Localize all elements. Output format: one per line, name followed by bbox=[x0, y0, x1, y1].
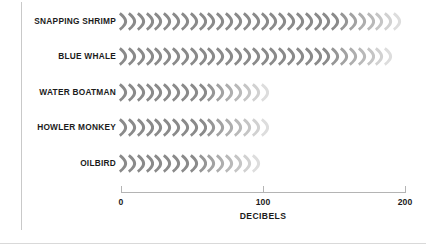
sound-wave-arc-icon bbox=[163, 82, 172, 103]
sound-wave-arc-icon bbox=[190, 82, 199, 103]
x-axis-tick bbox=[263, 186, 264, 193]
sound-wave-arc-icon bbox=[314, 46, 323, 67]
sound-wave-arc-icon bbox=[225, 153, 234, 174]
sound-wave-arc-icon bbox=[234, 153, 243, 174]
row-label: WATER BOATMAN bbox=[24, 77, 116, 107]
sound-wave-arc-icon bbox=[216, 11, 225, 32]
sound-wave-arc-icon bbox=[278, 11, 287, 32]
sound-wave-arc-icon bbox=[181, 46, 190, 67]
sound-wave-arc-icon bbox=[322, 11, 331, 32]
sound-wave-arc-icon bbox=[225, 11, 234, 32]
sound-wave-arc-icon bbox=[163, 117, 172, 138]
sound-wave-arc-icon bbox=[252, 46, 261, 67]
sound-wave-arc-icon bbox=[199, 46, 208, 67]
sound-wave-arc-icon bbox=[261, 11, 270, 32]
sound-wave-arc-icon bbox=[322, 46, 331, 67]
sound-wave-arc-icon bbox=[340, 46, 349, 67]
sound-wave-arc-icon bbox=[314, 11, 323, 32]
chart-row: WATER BOATMAN bbox=[0, 77, 426, 107]
sound-wave-arc-icon bbox=[269, 46, 278, 67]
sound-wave-arc-icon bbox=[358, 11, 367, 32]
sound-wave-arc-icon bbox=[137, 82, 146, 103]
row-label: HOWLER MONKEY bbox=[24, 112, 116, 142]
sound-wave-arc-icon bbox=[296, 46, 305, 67]
sound-wave-arc-icon bbox=[137, 11, 146, 32]
sound-wave-arc-icon bbox=[216, 153, 225, 174]
sound-wave-arc-icon bbox=[207, 46, 216, 67]
sound-wave-arc-icon bbox=[172, 46, 181, 67]
row-label: OILBIRD bbox=[24, 148, 116, 178]
sound-wave-arc-icon bbox=[278, 46, 287, 67]
sound-wave-arc-icon bbox=[252, 117, 261, 138]
sound-wave-arc-icon bbox=[207, 153, 216, 174]
sound-wave-arc-icon bbox=[181, 82, 190, 103]
sound-wave-arc-icon bbox=[252, 11, 261, 32]
sound-wave-arc-icon bbox=[207, 11, 216, 32]
chart-row: OILBIRD bbox=[0, 148, 426, 178]
sound-wave-arc-icon bbox=[225, 46, 234, 67]
row-label: SNAPPING SHRIMP bbox=[24, 6, 116, 36]
sound-wave-arc-icon bbox=[393, 11, 402, 32]
sound-wave-arc-icon bbox=[137, 117, 146, 138]
sound-wave-arc-icon bbox=[119, 82, 128, 103]
row-icon-strip bbox=[119, 112, 269, 142]
sound-wave-arc-icon bbox=[234, 11, 243, 32]
row-icon-strip bbox=[119, 41, 393, 71]
sound-wave-arc-icon bbox=[261, 82, 270, 103]
sound-wave-arc-icon bbox=[207, 117, 216, 138]
sound-wave-arc-icon bbox=[331, 46, 340, 67]
sound-wave-arc-icon bbox=[243, 117, 252, 138]
sound-wave-arc-icon bbox=[163, 11, 172, 32]
sound-wave-arc-icon bbox=[234, 82, 243, 103]
sound-wave-arc-icon bbox=[146, 46, 155, 67]
sound-wave-arc-icon bbox=[305, 46, 314, 67]
sound-wave-arc-icon bbox=[243, 82, 252, 103]
sound-wave-arc-icon bbox=[172, 11, 181, 32]
sound-wave-arc-icon bbox=[225, 82, 234, 103]
x-axis-title: DECIBELS bbox=[240, 211, 287, 221]
sound-wave-arc-icon bbox=[154, 153, 163, 174]
sound-wave-arc-icon bbox=[243, 46, 252, 67]
chart-row: SNAPPING SHRIMP bbox=[0, 6, 426, 36]
sound-wave-arc-icon bbox=[252, 82, 261, 103]
sound-wave-arc-icon bbox=[154, 11, 163, 32]
sound-wave-arc-icon bbox=[137, 46, 146, 67]
sound-wave-arc-icon bbox=[261, 117, 270, 138]
x-axis-tick-label: 0 bbox=[119, 197, 124, 207]
sound-wave-arc-icon bbox=[181, 11, 190, 32]
sound-wave-arc-icon bbox=[181, 117, 190, 138]
sound-wave-arc-icon bbox=[199, 117, 208, 138]
sound-wave-arc-icon bbox=[163, 153, 172, 174]
sound-wave-arc-icon bbox=[384, 46, 393, 67]
sound-wave-arc-icon bbox=[119, 117, 128, 138]
sound-wave-arc-icon bbox=[163, 46, 172, 67]
sound-wave-arc-icon bbox=[252, 153, 261, 174]
sound-wave-arc-icon bbox=[181, 153, 190, 174]
sound-wave-arc-icon bbox=[146, 82, 155, 103]
sound-wave-arc-icon bbox=[172, 153, 181, 174]
sound-wave-arc-icon bbox=[216, 117, 225, 138]
sound-wave-arc-icon bbox=[172, 82, 181, 103]
sound-wave-arc-icon bbox=[146, 11, 155, 32]
sound-wave-arc-icon bbox=[190, 117, 199, 138]
sound-wave-arc-icon bbox=[349, 11, 358, 32]
sound-wave-arc-icon bbox=[137, 153, 146, 174]
x-axis-tick bbox=[121, 186, 122, 193]
sound-wave-arc-icon bbox=[128, 11, 137, 32]
sound-wave-arc-icon bbox=[128, 46, 137, 67]
sound-wave-arc-icon bbox=[331, 11, 340, 32]
row-icon-strip bbox=[119, 148, 261, 178]
x-axis-tick-label: 100 bbox=[256, 197, 270, 207]
sound-wave-arc-icon bbox=[234, 46, 243, 67]
sound-wave-arc-icon bbox=[190, 11, 199, 32]
sound-wave-arc-icon bbox=[119, 153, 128, 174]
sound-wave-arc-icon bbox=[287, 11, 296, 32]
sound-wave-arc-icon bbox=[128, 82, 137, 103]
sound-wave-arc-icon bbox=[146, 117, 155, 138]
sound-wave-arc-icon bbox=[172, 117, 181, 138]
sound-wave-arc-icon bbox=[199, 153, 208, 174]
chart-row: HOWLER MONKEY bbox=[0, 112, 426, 142]
x-axis-tick bbox=[405, 186, 406, 193]
sound-wave-arc-icon bbox=[375, 11, 384, 32]
sound-wave-arc-icon bbox=[146, 153, 155, 174]
